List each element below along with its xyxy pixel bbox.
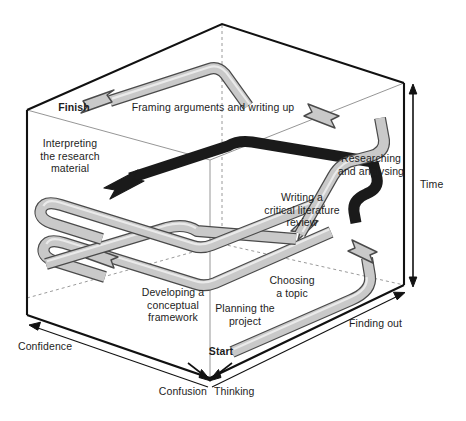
- stage-label-planning: Planning the project: [203, 302, 287, 327]
- axis-label-time: Time: [420, 178, 462, 191]
- stage-label-choosing: Choosing a topic: [256, 274, 328, 299]
- stage-label-framing: Framing arguments and writing up: [108, 101, 318, 114]
- stage-label-interpreting: Interpreting the research material: [22, 137, 118, 175]
- axis-arrow-time: [409, 84, 417, 287]
- diagram-canvas: [0, 0, 466, 421]
- axis-label-finding-out: Finding out: [349, 317, 429, 330]
- axis-label-thinking: Thinking: [214, 385, 276, 398]
- axis-arrow-confidence: [29, 322, 208, 387]
- marker-start: Start: [196, 345, 246, 358]
- stage-label-researching: Researching and analysing: [330, 152, 412, 177]
- axis-label-confidence: Confidence: [18, 340, 94, 353]
- marker-finish: Finish: [44, 101, 104, 114]
- axis-label-confusion: Confusion: [145, 385, 207, 398]
- research-process-diagram: Finish Start Framing arguments and writi…: [0, 0, 466, 421]
- stage-label-lit-review: Writing a critical literature review: [256, 191, 348, 229]
